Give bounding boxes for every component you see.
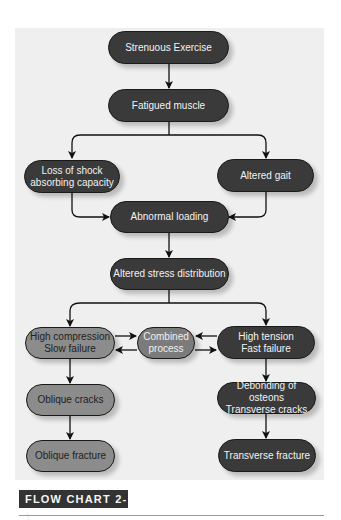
- node-abnormal-loading: Abnormal loading: [110, 201, 229, 233]
- node-oblique-fracture: Oblique fracture: [26, 440, 115, 472]
- node-combined-process: Combined process: [137, 327, 195, 359]
- node-debonding-of-osteons: Debonding of osteons Transverse cracks: [217, 382, 316, 414]
- figure-caption: FLOW CHART 2-1: [19, 490, 128, 508]
- node-altered-stress-distribution: Altered stress distribution: [110, 258, 229, 290]
- node-fatigued-muscle: Fatigued muscle: [108, 89, 229, 122]
- node-loss-of-shock-absorbing-capacity: Loss of shock absorbing capacity: [24, 160, 120, 193]
- node-high-compression: High compression Slow failure: [25, 327, 115, 359]
- node-high-tension: High tension Fast failure: [217, 326, 315, 359]
- node-transverse-fracture: Transverse fracture: [218, 439, 316, 472]
- caption-rule: [19, 515, 324, 516]
- node-oblique-cracks: Oblique cracks: [26, 384, 115, 416]
- node-strenuous-exercise: Strenuous Exercise: [108, 31, 229, 64]
- node-altered-gait: Altered gait: [217, 159, 314, 192]
